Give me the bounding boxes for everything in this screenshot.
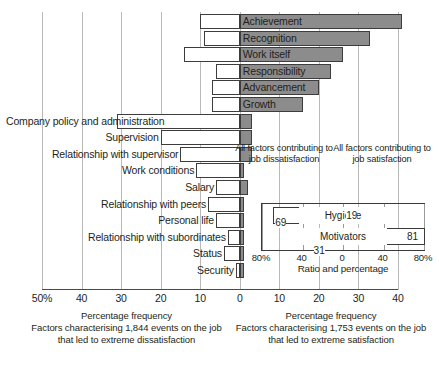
row-label: Recognition xyxy=(240,31,398,46)
row-label: Relationship with peers xyxy=(6,197,206,212)
row-label: Responsibility xyxy=(240,64,398,79)
caption-right-body: Factors characterising 1,753 events on t… xyxy=(236,322,426,345)
caption-right-title: Percentage frequency xyxy=(232,310,430,322)
row-label: Company policy and administration xyxy=(6,114,115,129)
bar-dissatisfaction xyxy=(184,47,239,62)
inset-bar-name: Motivators xyxy=(299,228,387,245)
axis-tick-label: 30 xyxy=(115,292,126,304)
inset-tick-label: 0 xyxy=(339,252,344,263)
bar-dissatisfaction xyxy=(161,130,240,145)
inset-tick-label: 80% xyxy=(252,252,270,263)
inset-value-satisfaction: 81 xyxy=(407,231,418,242)
x-axis-line xyxy=(42,289,398,290)
inset-value-satisfaction: 19 xyxy=(346,210,357,221)
axis-tick-label: 40 xyxy=(76,292,87,304)
row-label: Advancement xyxy=(240,80,398,95)
bar-satisfaction xyxy=(240,114,252,129)
row-label: Achievement xyxy=(240,14,398,29)
axis-tick-label: 30 xyxy=(353,292,364,304)
x-axis-tick-labels: 50%40302010010203040 xyxy=(42,292,398,308)
bar-dissatisfaction xyxy=(212,80,240,95)
bar-dissatisfaction xyxy=(216,64,240,79)
inset-heading-dissatisfaction: All factors contributing to job dissatis… xyxy=(235,143,333,201)
row-label: Supervision xyxy=(6,130,159,145)
herzberg-two-factor-chart: AchievementRecognitionWork itselfRespons… xyxy=(0,0,439,392)
axis-tick-label: 0 xyxy=(237,292,243,304)
inset-tick-label: 40 xyxy=(377,252,387,263)
chart-row: Advancement xyxy=(42,80,398,95)
row-label: Personal life xyxy=(6,213,214,228)
chart-row: Growth xyxy=(42,97,398,112)
chart-row: Company policy and administration xyxy=(42,114,398,129)
bar-dissatisfaction xyxy=(180,147,239,162)
chart-row: Work itself xyxy=(42,47,398,62)
axis-tick-label: 20 xyxy=(155,292,166,304)
row-label: Security xyxy=(6,263,234,278)
row-label: Relationship with supervisor xyxy=(6,147,178,162)
inset-value-dissatisfaction: 69 xyxy=(275,217,286,228)
axis-tick-label: 10 xyxy=(195,292,206,304)
row-label: Relationship with subordinates xyxy=(6,230,226,245)
inset-headings: All factors contributing to job dissatis… xyxy=(235,143,431,201)
bar-dissatisfaction xyxy=(212,97,240,112)
inset-gridline xyxy=(262,204,263,250)
inset-axis-label: Ratio and percentage xyxy=(261,263,425,274)
bar-dissatisfaction xyxy=(200,14,240,29)
inset-tick-label: 40 xyxy=(296,252,306,263)
axis-tick-label: 40 xyxy=(392,292,403,304)
chart-row: Responsibility xyxy=(42,64,398,79)
chart-row: Recognition xyxy=(42,31,398,46)
row-label: Work itself xyxy=(240,47,398,62)
axis-tick-label: 50% xyxy=(32,292,52,304)
inset-tick-label: 80% xyxy=(414,252,432,263)
axis-tick-label: 10 xyxy=(274,292,285,304)
inset-heading-satisfaction: All factors contributing to job satisfac… xyxy=(333,143,431,201)
caption-left-title: Percentage frequency xyxy=(24,310,229,322)
chart-row: Achievement xyxy=(42,14,398,29)
bar-dissatisfaction xyxy=(204,31,240,46)
inset-plot-area: Hygiene6919Motivators3181 xyxy=(261,203,425,251)
row-label: Salary xyxy=(6,180,214,195)
caption-left-body: Factors characterising 1,844 events on t… xyxy=(31,322,221,345)
row-label: Work conditions xyxy=(6,163,194,178)
bar-dissatisfaction xyxy=(196,163,240,178)
axis-tick-label: 20 xyxy=(313,292,324,304)
inset-bar-name: Hygiene xyxy=(299,207,387,224)
caption-dissatisfaction: Percentage frequency Factors characteris… xyxy=(24,310,229,347)
row-label: Status xyxy=(6,246,222,261)
inset-summary-chart: All factors contributing to job dissatis… xyxy=(235,143,431,272)
row-label: Growth xyxy=(240,97,398,112)
caption-satisfaction: Percentage frequency Factors characteris… xyxy=(232,310,430,347)
